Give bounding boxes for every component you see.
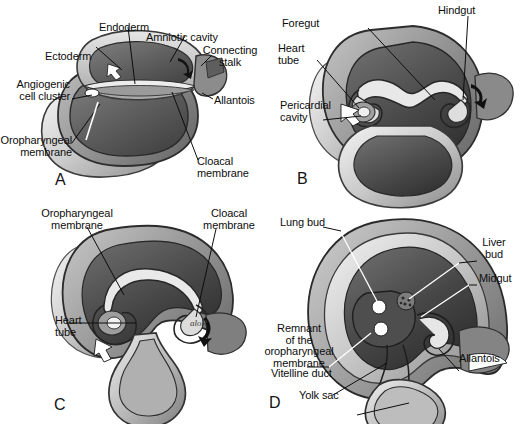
panel-b: Hindgut Foregut Heart tube Pericardial c… (263, 0, 527, 212)
panel-letter-b: B (297, 170, 308, 188)
label-endoderm: Endoderm (99, 22, 149, 34)
label-oropharyngeal-membrane: Oropharyngeal membrane (34, 208, 120, 231)
label-midgut: Midgut (479, 273, 511, 285)
label-ectoderm: Ectoderm (45, 51, 91, 63)
label-liver-bud: Liver bud (476, 237, 512, 260)
label-heart-tube: Heart tube (278, 43, 304, 66)
label-heart-tube: Heart tube (55, 315, 81, 338)
panel-a: Endoderm Amniotic cavity Ectoderm Connec… (0, 0, 264, 212)
panel-letter-d: D (269, 394, 281, 412)
label-lung-bud: Lung bud (280, 217, 325, 229)
panel-c-artwork (0, 205, 264, 424)
panel-c: Oropharyngeal membrane Cloacal membrane … (0, 205, 264, 424)
label-hindgut: Hindgut (438, 5, 475, 17)
label-cloacal-membrane: Cloacal membrane (194, 208, 264, 231)
label-yolk-sac: Yolk sac (299, 390, 339, 402)
panel-letter-a: A (55, 171, 66, 189)
artist-signature: aloR (190, 318, 207, 328)
label-remnant-oropharyngeal-membrane: Remnant of the oropharyngeal membrane (257, 323, 341, 369)
label-pericardial-cavity: Pericardial cavity (280, 100, 331, 123)
label-amniotic-cavity: Amniotic cavity (146, 32, 218, 44)
label-vitelline-duct: Vitelline duct (271, 368, 332, 380)
label-allantois: Allantois (459, 353, 500, 365)
label-connecting-stalk: Connecting stalk (197, 45, 263, 68)
panel-d: Lung bud Liver bud Midgut Remnant of the… (263, 205, 527, 424)
label-oropharyngeal-membrane: Oropharyngeal membrane (0, 135, 72, 158)
panel-letter-c: C (54, 396, 66, 414)
label-allantois: Allantois (214, 95, 255, 107)
embryology-figure: Endoderm Amniotic cavity Ectoderm Connec… (0, 0, 527, 424)
label-foregut: Foregut (282, 18, 319, 30)
label-angiogenic-cell-cluster: Angiogenic cell cluster (0, 79, 70, 102)
label-cloacal-membrane: Cloacal membrane (197, 156, 249, 179)
